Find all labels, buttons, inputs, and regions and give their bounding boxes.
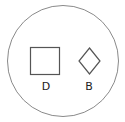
square-label: D [42,81,50,92]
enclosing-circle [8,6,119,117]
diagram-canvas [0,0,125,122]
diamond-shape [79,48,100,74]
diamond-label: B [85,81,93,92]
square-shape [31,48,60,75]
